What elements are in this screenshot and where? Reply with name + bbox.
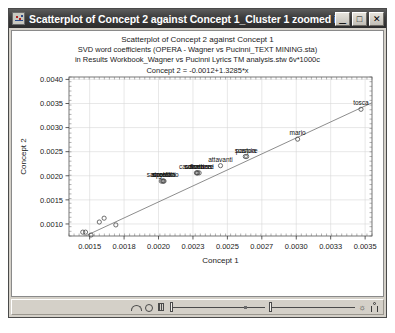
scale-slider[interactable] [269,302,355,313]
plot-svg[interactable]: 0.00150.00180.00200.00230.00250.00270.00… [12,31,384,297]
y-axis-title: Concept 2 [19,138,28,175]
x-axis-title: Concept 1 [202,256,239,265]
y-axis-tick-label: 0.0040 [40,75,63,84]
data-point-label: pastore [236,147,258,155]
x-axis-tick-label: 0.0015 [78,242,101,251]
data-point-label: carceriere [185,163,214,170]
y-axis-tick-label: 0.0015 [40,196,63,205]
data-point[interactable] [97,220,101,224]
zoom-slider[interactable] [170,302,265,313]
window-titlebar[interactable]: Scatterplot of Concept 2 against Concept… [9,9,386,28]
zoom-out-icon[interactable]: ☼ [359,303,366,312]
scatterplot: Scatterplot of Concept 2 against Concept… [12,31,383,296]
x-axis-tick-label: 0.0023 [181,242,204,251]
x-axis-tick-label: 0.0035 [354,242,377,251]
data-point-label: tosca [353,99,369,106]
minimize-icon: _ [336,13,349,22]
zoom-slider-tick [244,306,247,309]
x-axis-tick-label: 0.0018 [113,242,136,251]
y-axis-tick-label: 0.0035 [40,99,63,108]
maximize-button[interactable]: □ [352,12,367,26]
data-point[interactable] [114,223,118,227]
statistica-graph-icon [12,12,25,25]
window-controls: _ □ ✕ [335,12,384,26]
scale-slider-track [269,307,355,308]
close-button[interactable]: ✕ [369,12,384,26]
y-axis-tick-label: 0.0010 [40,220,63,229]
scale-slider-thumb[interactable] [269,302,272,312]
grid-tool-icon[interactable] [157,303,166,312]
person-icon[interactable] [370,302,378,312]
zoom-slider-track [170,307,265,308]
chart-window: Scatterplot of Concept 2 against Concept… [8,8,387,318]
toolbar-icon-group: ☼ [131,302,383,313]
zoom-slider-thumb[interactable] [170,302,173,312]
data-point[interactable] [102,216,106,220]
close-icon: ✕ [370,13,383,25]
maximize-icon: □ [353,13,366,25]
chart-client-area: Scatterplot of Concept 2 against Concept… [11,30,384,297]
y-axis-tick-label: 0.0030 [40,123,63,132]
minimize-button[interactable]: _ [335,12,350,26]
arc-tool-icon[interactable] [131,303,140,312]
y-axis-tick-label: 0.0025 [40,147,63,156]
window-title: Scatterplot of Concept 2 against Concept… [29,13,335,25]
x-axis-tick-label: 0.0025 [216,242,239,251]
circle-tool-icon[interactable] [144,303,153,312]
data-point-label: mario [289,129,306,136]
screenshot-root: Scatterplot of Concept 2 against Concept… [0,0,395,333]
x-axis-tick-label: 0.0033 [319,242,342,251]
data-point[interactable] [83,230,87,234]
y-axis-tick-label: 0.0020 [40,172,63,181]
data-point-label: spoletta [153,171,176,179]
x-axis-tick-label: 0.0020 [147,242,170,251]
x-axis-tick-label: 0.0030 [285,242,308,251]
graph-bottom-toolbar: ☼ [11,299,384,315]
x-axis-tick-label: 0.0027 [250,242,273,251]
data-point[interactable] [218,164,222,168]
data-point-label: attavanti [208,156,233,163]
regression-line [69,103,372,244]
